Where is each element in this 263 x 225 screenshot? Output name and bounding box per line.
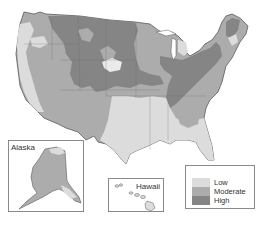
hawaii-islands xyxy=(109,179,165,213)
legend-swatch-moderate xyxy=(192,187,210,196)
legend-swatch-low xyxy=(192,178,210,187)
hawaii-inset: Hawaii xyxy=(108,178,164,212)
legend-item-moderate: Moderate xyxy=(192,187,246,196)
legend-label-high: High xyxy=(214,196,229,205)
legend-item-low: Low xyxy=(192,178,228,187)
legend-item-high: High xyxy=(192,196,229,205)
legend-swatch-high xyxy=(192,196,210,205)
alaska-shape xyxy=(9,141,85,213)
legend-label-low: Low xyxy=(214,178,228,187)
legend: Low Moderate High xyxy=(185,165,255,209)
alaska-inset: Alaska xyxy=(8,140,84,212)
legend-label-moderate: Moderate xyxy=(214,187,246,196)
